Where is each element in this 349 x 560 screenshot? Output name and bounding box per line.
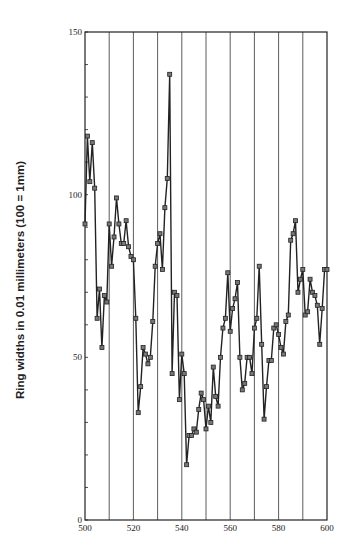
data-point-marker (320, 307, 324, 311)
data-point-marker (289, 238, 293, 242)
data-point-marker (90, 141, 94, 145)
data-point-marker (160, 267, 164, 271)
data-point-marker (114, 196, 118, 200)
data-point-marker (144, 352, 148, 356)
data-point-marker (211, 365, 215, 369)
data-point-marker (260, 342, 264, 346)
data-point-marker (216, 404, 220, 408)
data-point-marker (284, 320, 288, 324)
data-point-marker (158, 232, 162, 236)
data-point-marker (255, 316, 259, 320)
data-point-marker (165, 176, 169, 180)
data-point-marker (315, 303, 319, 307)
data-point-marker (204, 427, 208, 431)
data-point-marker (277, 333, 281, 337)
data-point-marker (219, 355, 223, 359)
data-point-marker (185, 463, 189, 467)
x-axis-ticks: 500520540560580600 (78, 523, 334, 533)
data-point-marker (206, 404, 210, 408)
data-point-marker (252, 326, 256, 330)
data-point-marker (298, 277, 302, 281)
data-point-marker (228, 329, 232, 333)
data-point-marker (180, 352, 184, 356)
y-tick-label: 100 (69, 190, 83, 200)
data-point-marker (189, 433, 193, 437)
x-tick-label: 520 (127, 523, 141, 533)
data-point-marker (93, 186, 97, 190)
data-point-marker (100, 346, 104, 350)
data-point-marker (88, 180, 92, 184)
x-tick-label: 540 (175, 523, 189, 533)
data-point-marker (318, 342, 322, 346)
data-point-marker (238, 355, 242, 359)
data-point-marker (177, 398, 181, 402)
vertical-gridlines (109, 32, 303, 520)
data-point-marker (151, 320, 155, 324)
data-point-marker (265, 385, 269, 389)
data-point-marker (214, 394, 218, 398)
data-point-marker (294, 219, 298, 223)
data-point-marker (112, 235, 116, 239)
data-point-marker (85, 134, 89, 138)
data-point-marker (139, 385, 143, 389)
x-tick-label: 580 (272, 523, 286, 533)
data-point-marker (235, 281, 239, 285)
data-point-marker (156, 241, 160, 245)
data-point-marker (146, 362, 150, 366)
data-point-marker (102, 294, 106, 298)
data-point-marker (148, 355, 152, 359)
x-tick-label: 560 (223, 523, 237, 533)
data-point-marker (262, 417, 266, 421)
data-point-marker (98, 287, 102, 291)
data-point-marker (274, 323, 278, 327)
data-point-marker (182, 372, 186, 376)
data-point-marker (296, 290, 300, 294)
x-tick-label: 500 (78, 523, 92, 533)
data-point-marker (124, 219, 128, 223)
data-point-marker (175, 294, 179, 298)
data-point-marker (83, 222, 87, 226)
data-point-marker (194, 430, 198, 434)
data-point-marker (240, 388, 244, 392)
ring-width-line-chart: 050100150 500520540560580600 (0, 0, 349, 560)
data-point-marker (122, 241, 126, 245)
y-tick-label: 50 (73, 352, 83, 362)
data-point-marker (223, 316, 227, 320)
data-point-marker (221, 326, 225, 330)
data-point-marker (110, 264, 114, 268)
data-point-marker (291, 232, 295, 236)
data-point-marker (281, 352, 285, 356)
data-point-marker (197, 407, 201, 411)
data-point-marker (134, 316, 138, 320)
x-tick-label: 600 (320, 523, 334, 533)
data-point-marker (279, 346, 283, 350)
y-tick-label: 150 (69, 27, 83, 37)
data-point-marker (127, 245, 131, 249)
data-point-marker (136, 411, 140, 415)
data-point-marker (286, 313, 290, 317)
data-point-marker (117, 222, 121, 226)
data-point-marker (209, 420, 213, 424)
data-point-marker (248, 355, 252, 359)
data-point-marker (163, 206, 167, 210)
data-point-marker (269, 359, 273, 363)
data-point-marker (153, 264, 157, 268)
data-point-marker (306, 310, 310, 314)
data-point-marker (308, 277, 312, 281)
data-point-marker (107, 222, 111, 226)
data-point-marker (313, 294, 317, 298)
data-point-marker (250, 372, 254, 376)
data-point-marker (95, 316, 99, 320)
data-point-marker (168, 72, 172, 76)
data-point-marker (105, 300, 109, 304)
data-point-marker (257, 264, 261, 268)
data-point-marker (199, 391, 203, 395)
data-point-marker (226, 271, 230, 275)
data-point-marker (301, 267, 305, 271)
data-point-marker (141, 346, 145, 350)
data-point-marker (243, 381, 247, 385)
data-point-marker (233, 297, 237, 301)
data-point-marker (202, 398, 206, 402)
data-point-marker (231, 307, 235, 311)
data-point-marker (131, 258, 135, 262)
